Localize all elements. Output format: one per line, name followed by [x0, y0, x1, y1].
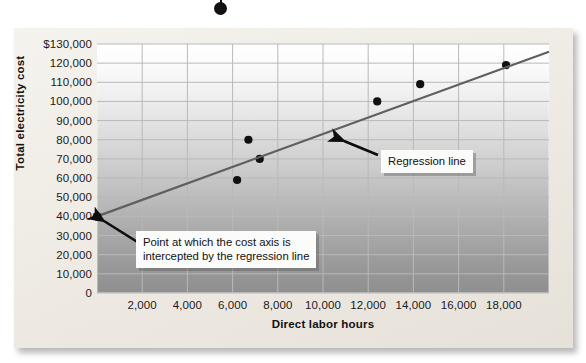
intercept-callout-arrow: [104, 221, 139, 243]
x-axis-tick-label: 16,000: [441, 299, 477, 311]
x-axis-tick-label: 18,000: [486, 299, 522, 311]
y-axis-tick-label: 0: [86, 287, 93, 299]
y-axis-tick-label: 60,000: [56, 172, 92, 184]
y-axis-tick-labels: $130,000120,000110,000100,00090,00080,00…: [20, 44, 92, 293]
y-axis-tick-label: 110,000: [51, 76, 92, 88]
x-axis-tick-label: 4,000: [173, 299, 202, 311]
y-axis-tick-label: 20,000: [56, 249, 92, 261]
y-axis-tick-label: 70,000: [56, 153, 92, 165]
x-axis-tick-label: 2,000: [128, 299, 157, 311]
y-axis-tick-label: 30,000: [56, 230, 92, 242]
y-axis-title: Total electricity cost: [14, 33, 26, 193]
intercept-callout-line-2: intercepted by the regression line: [143, 249, 309, 263]
regression-callout-arrow: [344, 141, 378, 155]
y-axis-tick-label: 80,000: [56, 134, 92, 146]
x-axis-tick-label: 6,000: [218, 299, 247, 311]
x-axis-tick-label: 8,000: [263, 299, 292, 311]
x-axis-tick-labels: 2,0004,0006,0008,00010,00012,00014,00016…: [97, 299, 549, 317]
x-axis-tick-label: 10,000: [305, 299, 341, 311]
x-axis-title: Direct labor hours: [97, 318, 549, 330]
y-axis-tick-label: 90,000: [56, 115, 92, 127]
intercept-callout-line-1: Point at which the cost axis is: [143, 235, 309, 249]
scatter-chart: $130,000120,000110,000100,00090,00080,00…: [0, 0, 586, 363]
regression-callout-text: Regression line: [388, 154, 466, 168]
y-axis-tick-label: $130,000: [43, 38, 92, 50]
y-axis-tick-label: 100,000: [50, 95, 92, 107]
y-axis-tick-label: 40,000: [56, 210, 92, 222]
y-axis-tick-label: 120,000: [50, 57, 92, 69]
intercept-callout: Point at which the cost axis is intercep…: [136, 231, 316, 268]
x-axis-tick-label: 12,000: [350, 299, 386, 311]
y-axis-tick-label: 50,000: [56, 191, 92, 203]
regression-line-callout: Regression line: [381, 150, 473, 173]
y-axis-tick-label: 10,000: [56, 268, 92, 280]
x-axis-tick-label: 14,000: [396, 299, 432, 311]
